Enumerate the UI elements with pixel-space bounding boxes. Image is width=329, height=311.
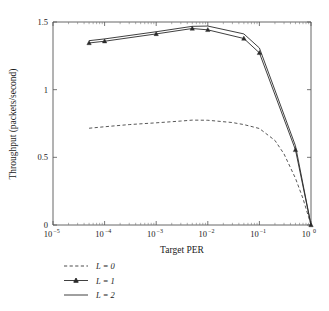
x-tick-mantissa: 10 bbox=[250, 229, 259, 239]
x-tick-mantissa: 10 bbox=[44, 229, 53, 239]
chart-figure: 10−510−410−310−210−1100 00.511.5 Target … bbox=[0, 0, 329, 311]
y-tick-label: 1 bbox=[44, 85, 48, 95]
x-tick-mantissa: 10 bbox=[302, 229, 311, 239]
x-tick-exponent: −5 bbox=[53, 228, 59, 234]
y-tick-label: 0 bbox=[44, 220, 48, 230]
legend-label-1: L = 1 bbox=[95, 276, 115, 286]
x-axis-label: Target PER bbox=[160, 245, 204, 255]
x-tick-mantissa: 10 bbox=[199, 229, 208, 239]
x-tick-exponent: −3 bbox=[157, 228, 163, 234]
y-tick-label: 1.5 bbox=[37, 17, 48, 27]
x-tick-exponent: −4 bbox=[105, 228, 111, 234]
x-tick-exponent: −1 bbox=[260, 228, 266, 234]
throughput-vs-target-per-chart: 10−510−410−310−210−1100 00.511.5 Target … bbox=[0, 0, 329, 311]
y-tick-label: 0.5 bbox=[37, 152, 48, 162]
x-tick-exponent: 0 bbox=[313, 228, 316, 234]
legend-label-2: L = 2 bbox=[95, 290, 116, 300]
legend-label-0: L = 0 bbox=[95, 261, 116, 271]
x-tick-mantissa: 10 bbox=[95, 229, 104, 239]
x-tick-mantissa: 10 bbox=[147, 229, 156, 239]
y-axis-label: Throughput (packets/second) bbox=[8, 68, 19, 179]
x-tick-exponent: −2 bbox=[208, 228, 214, 234]
chart-background bbox=[0, 0, 329, 311]
